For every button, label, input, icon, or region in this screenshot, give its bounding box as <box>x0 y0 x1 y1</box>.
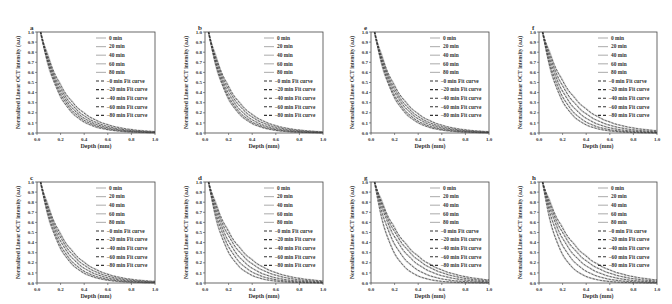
y-tick-label: 0.9 <box>362 40 369 45</box>
legend-label: 0 min <box>109 185 122 191</box>
legend-label: 80 min <box>611 69 627 75</box>
y-tick-label: 0.1 <box>362 121 369 126</box>
y-tick-label: 0.8 <box>28 50 35 55</box>
y-tick-label: 0.5 <box>362 80 369 85</box>
legend-label: 0 min <box>277 35 290 41</box>
legend-label: 40 min <box>611 52 627 58</box>
legend-label: 80 min <box>611 219 627 225</box>
y-tick-label: 1.0 <box>362 180 369 185</box>
legend-label: 20 min <box>109 193 125 199</box>
y-tick-label: 0.2 <box>362 110 369 115</box>
x-tick-label: 0.0 <box>34 137 41 142</box>
y-tick-label: 0.2 <box>530 110 537 115</box>
x-tick-label: 0.6 <box>105 137 112 142</box>
y-tick-label: 0.9 <box>196 190 203 195</box>
y-tick-label: 0.8 <box>362 50 369 55</box>
x-axis-label: Depth (mm) <box>80 293 111 300</box>
y-tick-label: 0.6 <box>196 70 203 75</box>
y-tick-label: 1.0 <box>196 180 203 185</box>
x-tick-label: 0.8 <box>128 287 135 292</box>
legend-label: −40 min Fit curve <box>441 95 483 101</box>
y-tick-label: 0.1 <box>28 271 35 276</box>
y-tick-label: 0.6 <box>196 220 203 225</box>
legend-label: −20 min Fit curve <box>275 236 317 242</box>
legend-label: 0 min <box>109 35 122 41</box>
x-tick-label: 0.4 <box>249 137 256 142</box>
legend-label: −20 min Fit curve <box>609 86 651 92</box>
x-tick-label: 0.2 <box>559 137 566 142</box>
legend-label: −60 min Fit curve <box>609 254 651 260</box>
legend-label: −40 min Fit curve <box>441 245 483 251</box>
x-tick-label: 0.0 <box>202 137 209 142</box>
legend-label: 40 min <box>277 202 293 208</box>
chart-panel-f: f0.00.10.20.30.40.50.60.70.80.91.00.00.2… <box>502 0 672 150</box>
legend-label: 20 min <box>443 43 459 49</box>
legend-label: −80 min Fit curve <box>609 262 651 268</box>
y-tick-label: 0.5 <box>196 230 203 235</box>
y-tick-label: 0.2 <box>28 110 35 115</box>
y-tick-label: 1.0 <box>530 180 537 185</box>
legend-label: 80 min <box>109 219 125 225</box>
x-tick-label: 0.2 <box>391 287 398 292</box>
x-tick-label: 0.4 <box>583 287 590 292</box>
y-tick-label: 0.0 <box>196 131 203 136</box>
y-tick-label: 0.0 <box>530 131 537 136</box>
legend-label: −20 min Fit curve <box>609 236 651 242</box>
x-axis-label: Depth (mm) <box>582 293 613 300</box>
legend-label: −80 min Fit curve <box>441 112 483 118</box>
y-tick-label: 0.7 <box>196 60 203 65</box>
y-tick-label: 0.5 <box>196 80 203 85</box>
legend-label: −60 min Fit curve <box>107 254 149 260</box>
y-tick-label: 0.8 <box>28 200 35 205</box>
legend-label: 20 min <box>277 43 293 49</box>
chart-panel-e: e0.00.10.20.30.40.50.60.70.80.91.00.00.2… <box>334 0 504 150</box>
x-tick-label: 0.0 <box>536 137 543 142</box>
chart-panel-a: a0.00.10.20.30.40.50.60.70.80.91.00.00.2… <box>0 0 170 150</box>
legend-label: 60 min <box>109 61 125 67</box>
x-tick-label: 0.0 <box>368 137 375 142</box>
legend-label: 20 min <box>277 193 293 199</box>
y-tick-label: 1.0 <box>28 30 35 35</box>
y-tick-label: 0.4 <box>28 240 35 245</box>
y-tick-label: 0.4 <box>530 240 537 245</box>
y-tick-label: 0.0 <box>196 281 203 286</box>
y-tick-label: 0.1 <box>530 121 537 126</box>
chart-panel-d: d0.00.10.20.30.40.50.60.70.80.91.00.00.2… <box>168 150 338 300</box>
y-tick-label: 0.2 <box>196 110 203 115</box>
legend-label: −80 min Fit curve <box>441 262 483 268</box>
legend-label: 40 min <box>109 52 125 58</box>
legend-label: 0 min <box>611 185 624 191</box>
legend-label: 80 min <box>109 69 125 75</box>
x-tick-label: 0.2 <box>225 287 232 292</box>
legend-label: −20 min Fit curve <box>441 236 483 242</box>
y-axis-label: Normalized Linear OCT intensity (a.u) <box>15 186 22 279</box>
legend-label: −60 min Fit curve <box>275 254 317 260</box>
y-tick-label: 0.0 <box>362 131 369 136</box>
y-tick-label: 0.7 <box>530 210 537 215</box>
legend-label: −0 min Fit curve <box>441 78 480 84</box>
x-tick-label: 0.0 <box>368 287 375 292</box>
legend-label: −20 min Fit curve <box>275 86 317 92</box>
chart-panel-g: g0.00.10.20.30.40.50.60.70.80.91.00.00.2… <box>334 150 504 300</box>
x-tick-label: 1.0 <box>152 287 159 292</box>
x-tick-label: 0.4 <box>415 287 422 292</box>
x-axis-label: Depth (mm) <box>248 293 279 300</box>
y-tick-label: 0.1 <box>530 271 537 276</box>
y-tick-label: 0.4 <box>196 240 203 245</box>
legend-label: 80 min <box>443 219 459 225</box>
y-axis-label: Normalized Linear OCT intensity (a.u) <box>15 36 22 129</box>
y-tick-label: 0.5 <box>530 80 537 85</box>
x-tick-label: 0.2 <box>559 287 566 292</box>
y-tick-label: 0.3 <box>362 250 369 255</box>
y-tick-label: 0.5 <box>362 230 369 235</box>
legend-label: −40 min Fit curve <box>609 245 651 251</box>
y-tick-label: 0.7 <box>28 60 35 65</box>
legend-label: 60 min <box>443 61 459 67</box>
legend-label: −80 min Fit curve <box>107 262 149 268</box>
legend-label: 40 min <box>443 202 459 208</box>
chart-panel-c: c0.00.10.20.30.40.50.60.70.80.91.00.00.2… <box>0 150 170 300</box>
y-tick-label: 0.6 <box>362 70 369 75</box>
legend-label: −40 min Fit curve <box>107 95 149 101</box>
y-tick-label: 0.7 <box>196 210 203 215</box>
y-tick-label: 0.3 <box>28 100 35 105</box>
